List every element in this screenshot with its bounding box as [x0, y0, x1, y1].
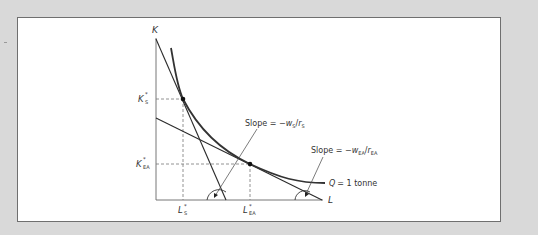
svg-text:EA: EA — [143, 164, 150, 170]
isocost-line-s — [156, 39, 226, 200]
svg-text:K: K — [136, 159, 143, 169]
isoquant-diagram: K L K * S K * EA L * S L * EA — [0, 0, 538, 235]
svg-text:K: K — [138, 94, 145, 104]
svg-text:*: * — [249, 203, 252, 209]
y-axis-label: K — [152, 25, 159, 35]
isoquant-label: Q= 1 tonne — [329, 179, 377, 188]
svg-text:S: S — [145, 99, 148, 105]
l-star-ea-label: L * EA — [243, 203, 256, 216]
tangency-point-s — [181, 97, 186, 102]
pointer-line-ea — [306, 157, 323, 194]
dashed-guides — [156, 99, 250, 200]
slope-label-ea: Slope = −wEA/rEA — [311, 146, 378, 156]
tangency-point-ea — [248, 162, 253, 167]
svg-text:L: L — [178, 205, 183, 215]
isoquant-curve — [171, 48, 325, 183]
k-star-ea-label: K * EA — [136, 156, 150, 170]
svg-text:*: * — [145, 91, 148, 97]
l-star-s-label: L * S — [178, 203, 187, 216]
svg-text:*: * — [184, 203, 187, 209]
x-axis-label: L — [328, 195, 333, 205]
k-star-s-label: K * S — [138, 91, 148, 105]
svg-text:EA: EA — [249, 210, 256, 216]
slope-label-s: Slope = −wS/rS — [245, 119, 305, 129]
svg-text:L: L — [243, 205, 248, 215]
svg-text:S: S — [184, 210, 187, 216]
angle-arc-ea — [295, 191, 310, 200]
svg-text:*: * — [143, 156, 146, 162]
